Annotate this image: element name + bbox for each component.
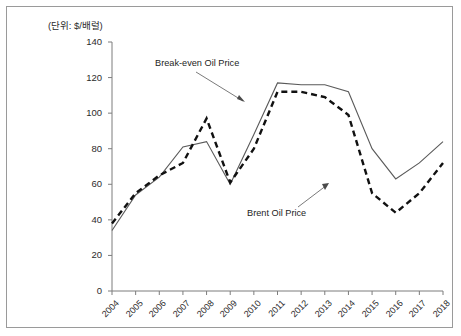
y-axis-ticks: [108, 42, 112, 291]
x-axis-ticks: [112, 291, 443, 295]
plot-area: 020406080100120140 200420052006200720082…: [0, 0, 461, 336]
leader-break-even-arrow: [237, 95, 245, 102]
y-tick-label-140: 140: [76, 36, 102, 47]
annotation-break-even-oil-price: Break-even Oil Price: [155, 58, 239, 68]
y-tick-label-0: 0: [76, 285, 102, 296]
annotation-leader-lines: [196, 72, 329, 207]
y-tick-label-120: 120: [76, 72, 102, 83]
chart-screenshot: (단위: $/배럴) 020406080100120140 2004200520…: [0, 0, 461, 336]
leader-break-even: [196, 72, 243, 101]
y-tick-label-20: 20: [76, 249, 102, 260]
y-tick-label-100: 100: [76, 107, 102, 118]
chart-svg: [0, 0, 461, 336]
y-tick-label-40: 40: [76, 214, 102, 225]
leader-brent: [298, 185, 327, 207]
y-tick-label-80: 80: [76, 143, 102, 154]
y-tick-label-60: 60: [76, 178, 102, 189]
annotation-brent-oil-price: Brent Oil Price: [247, 208, 306, 218]
leader-brent-arrow: [322, 183, 329, 190]
line-brent-oil-price: [112, 92, 443, 224]
